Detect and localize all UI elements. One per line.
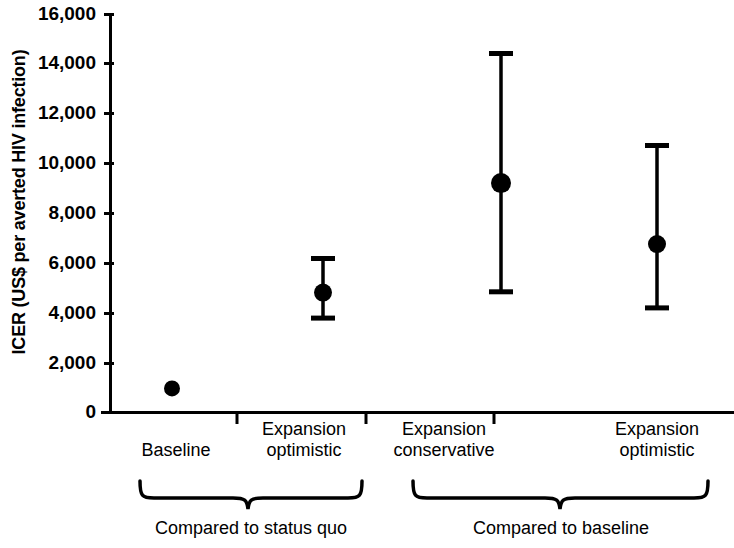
brace-compared-to-baseline — [413, 481, 708, 509]
x-category-label-2: Expansion optimistic — [243, 419, 365, 461]
marker — [314, 284, 332, 302]
x-category-label-4-line2: optimistic — [588, 440, 726, 461]
x-category-label-3-line2: conservative — [374, 440, 514, 461]
x-category-label-3-line1: Expansion — [374, 419, 514, 440]
marker — [648, 235, 666, 253]
group-label-compared-to-baseline: Compared to baseline — [440, 517, 682, 539]
data-series — [164, 53, 669, 397]
x-category-label-2-line2: optimistic — [243, 440, 365, 461]
plot-area — [0, 0, 734, 548]
group-braces — [140, 481, 708, 509]
data-point-expansion-conservative-baseline — [489, 53, 513, 293]
data-point-baseline — [164, 380, 180, 396]
x-category-label-1-line1: Baseline — [110, 440, 242, 461]
brace-compared-to-status-quo — [140, 481, 362, 509]
x-category-label-2-line1: Expansion — [243, 419, 365, 440]
x-category-label-4: Expansion optimistic — [588, 419, 726, 461]
marker — [491, 173, 511, 193]
data-point-expansion-optimistic-status-quo — [311, 258, 335, 319]
x-category-label-4-line1: Expansion — [588, 419, 726, 440]
data-point-expansion-optimistic-baseline — [645, 145, 669, 309]
x-category-label-1: Baseline — [110, 440, 242, 461]
group-label-compared-to-status-quo: Compared to status quo — [130, 517, 372, 539]
x-category-label-3: Expansion conservative — [374, 419, 514, 461]
chart-figure: ICER (US$ per averted HIV infection) 16,… — [0, 0, 734, 548]
